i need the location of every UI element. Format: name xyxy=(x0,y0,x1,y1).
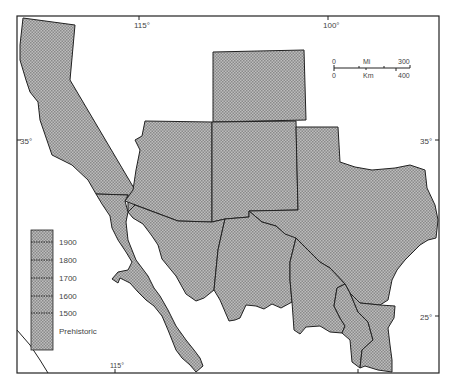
graticule-right-25: 25° xyxy=(420,313,432,322)
region-new-mexico xyxy=(212,121,298,222)
graticule-left-35: 35° xyxy=(20,137,32,146)
scale-miles-unit: Mi xyxy=(363,58,371,65)
legend-entry-1900: 1900 xyxy=(59,238,77,247)
legend-entry-1500: 1500 xyxy=(59,309,77,318)
graticule-bottom-115: 115° xyxy=(110,362,124,369)
legend-entry-prehistoric: Prehistoric xyxy=(59,327,97,336)
legend: 1900 1800 1700 1600 1500 Prehistoric xyxy=(31,230,97,350)
graticule-top-115: 115° xyxy=(134,21,150,30)
legend-entry-1700: 1700 xyxy=(59,274,77,283)
scale-km-end: 400 xyxy=(398,72,410,79)
legend-entry-1800: 1800 xyxy=(59,256,77,265)
region-colorado xyxy=(213,50,306,122)
scale-miles-end: 300 xyxy=(398,58,410,65)
scale-km-start: 0 xyxy=(332,72,336,79)
scale-km-unit: Km xyxy=(363,72,374,79)
scale-miles-start: 0 xyxy=(332,58,336,65)
region-california xyxy=(20,18,138,212)
legend-bar xyxy=(31,230,53,350)
graticule-top-100: 100° xyxy=(323,21,340,30)
legend-entry-1600: 1600 xyxy=(59,292,77,301)
map-canvas: 115° 100° 35° 35° 25° 115° 0 Mi 300 0 Km… xyxy=(0,0,450,391)
graticule-right-35: 35° xyxy=(420,137,432,146)
scale-bar: 0 Mi 300 0 Km 400 xyxy=(332,58,410,79)
